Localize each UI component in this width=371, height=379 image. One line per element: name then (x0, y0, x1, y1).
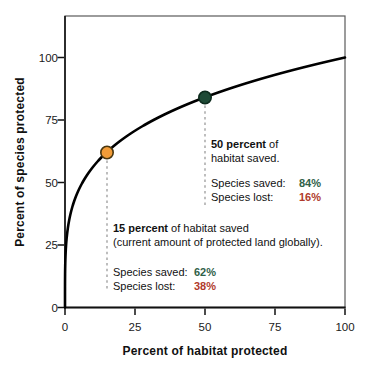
annotation-15-stats: Species saved: 62% Species lost: 38% (113, 266, 323, 293)
annotation-50-bold-text: 50 percent (211, 138, 266, 150)
y-axis-title: Percent of species protected (13, 12, 27, 312)
species-saved-row: Species saved: 84% (211, 177, 321, 191)
species-saved-label: Species saved: (113, 266, 194, 280)
species-lost-label: Species lost: (113, 280, 194, 294)
half-habitat-point (199, 91, 211, 103)
x-tick-label: 100 (335, 321, 354, 333)
species-lost-value: 16% (299, 191, 321, 205)
annotation-15-line2: (current amount of protected land global… (113, 236, 323, 250)
annotation-50-stats: Species saved: 84% Species lost: 16% (211, 177, 321, 204)
species-saved-value: 62% (194, 266, 216, 280)
x-tick-label: 50 (199, 321, 212, 333)
y-tick-label: 0 (52, 302, 58, 314)
species-lost-label: Species lost: (211, 191, 299, 205)
annotation-50-rest-text: of (266, 138, 278, 150)
x-tick-label: 75 (269, 321, 282, 333)
species-saved-label: Species saved: (211, 177, 299, 191)
species-lost-row: Species lost: 16% (211, 191, 321, 205)
annotation-15-line1: 15 percent of habitat saved (113, 222, 323, 236)
x-tick-label: 0 (62, 321, 68, 333)
annotation-50-percent: 50 percent of habitat saved. Species sav… (211, 138, 321, 204)
species-lost-value: 38% (194, 280, 216, 294)
annotation-15-rest-text: of habitat saved (168, 222, 249, 234)
annotation-15-bold-text: 15 percent (113, 222, 168, 234)
annotation-50-line1: 50 percent of (211, 138, 321, 152)
species-saved-value: 84% (299, 177, 321, 191)
species-area-chart: 02550751000255075100 Percent of species … (0, 0, 371, 379)
annotation-50-line2: habitat saved. (211, 152, 321, 166)
species-lost-row: Species lost: 38% (113, 280, 216, 294)
x-tick-label: 25 (129, 321, 142, 333)
y-tick-label: 25 (45, 239, 58, 251)
y-tick-label: 75 (45, 114, 58, 126)
annotation-15-percent: 15 percent of habitat saved (current amo… (113, 222, 323, 293)
species-saved-row: Species saved: 62% (113, 266, 216, 280)
x-axis-title: Percent of habitat protected (55, 344, 355, 358)
y-tick-label: 50 (45, 177, 58, 189)
current-protection-point (101, 146, 113, 158)
y-tick-label: 100 (39, 52, 58, 64)
